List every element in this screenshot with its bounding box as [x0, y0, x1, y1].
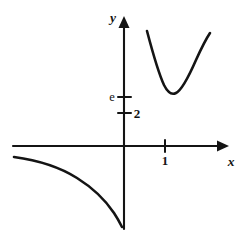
y-tick-label-2: 2 — [134, 106, 141, 121]
plot-canvas: y x e 2 1 — [0, 0, 245, 242]
y-tick-label-e: e — [109, 90, 115, 104]
graph-figure: y x e 2 1 — [0, 0, 245, 242]
y-axis-arrowhead — [119, 16, 130, 28]
x-tick-label-1: 1 — [162, 153, 169, 168]
curve-right-branch — [147, 31, 210, 94]
x-axis-label: x — [227, 154, 235, 169]
x-axis-arrowhead — [217, 141, 229, 152]
curve-left-branch — [14, 157, 122, 227]
y-axis-label: y — [108, 10, 117, 25]
